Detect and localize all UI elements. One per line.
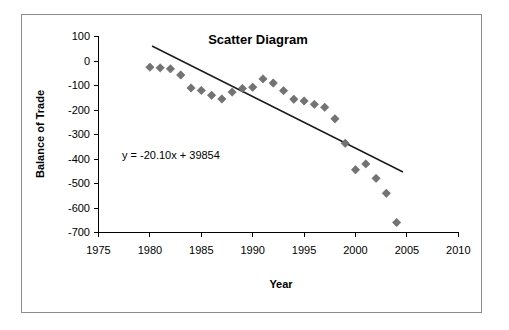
data-point [177,71,185,79]
data-point [166,65,174,73]
y-axis-label--200: -200 [68,104,90,116]
data-point [146,63,154,71]
data-point [207,91,215,99]
data-point [372,174,380,182]
data-point [341,139,349,147]
data-point [238,84,246,92]
data-point [218,95,226,103]
data-point [279,86,287,94]
y-axis-label--600: -600 [68,202,90,214]
y-axis-label--300: -300 [68,128,90,140]
x-axis-label-1985: 1985 [189,244,213,256]
data-point [331,115,339,123]
chart-title: Scatter Diagram [208,32,308,47]
x-axis-label-2005: 2005 [395,244,419,256]
data-point [362,160,370,168]
data-point [300,97,308,105]
data-point [249,83,257,91]
data-point [269,79,277,87]
data-point [197,86,205,94]
y-axis-label-0: 0 [84,55,90,67]
data-point [187,84,195,92]
data-point [351,166,359,174]
y-axis-title: Balance of Trade [34,90,46,178]
x-axis-label-1975: 1975 [86,244,110,256]
scatter-plot: 100 0 -100 -200 -300 -400 -500 -600 -700… [0,0,509,330]
x-axis-label-1995: 1995 [292,244,316,256]
y-axis-label-100: 100 [72,30,90,42]
data-point [259,75,267,83]
y-axis-label--100: -100 [68,79,90,91]
x-axis-label-2010: 2010 [446,244,470,256]
data-point [320,103,328,111]
y-tick-marks [94,37,98,233]
trendline-equation: y = -20.10x + 39854 [122,149,220,161]
x-axis-title: Year [269,278,293,290]
y-tick-labels: 100 0 -100 -200 -300 -400 -500 -600 -700 [68,30,90,238]
data-point [156,64,164,72]
y-axis-label--500: -500 [68,177,90,189]
x-tick-labels: 1975 1980 1985 1990 1995 2000 2005 2010 [86,244,470,256]
y-axis-label--400: -400 [68,153,90,165]
data-point [228,88,236,96]
y-axis-label--700: -700 [68,226,90,238]
data-point-markers [146,63,401,227]
data-point [290,95,298,103]
data-point [382,189,390,197]
x-axis-label-1990: 1990 [240,244,264,256]
data-point [392,218,400,226]
x-axis-label-2000: 2000 [343,244,367,256]
data-point [310,100,318,108]
x-axis-label-1980: 1980 [138,244,162,256]
